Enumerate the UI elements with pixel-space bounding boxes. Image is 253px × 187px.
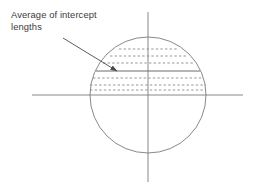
figure-canvas: Average of intercept lengths bbox=[0, 0, 253, 187]
leader-arrow bbox=[63, 38, 117, 71]
axes-group bbox=[32, 12, 243, 182]
diagram-svg bbox=[0, 0, 253, 187]
